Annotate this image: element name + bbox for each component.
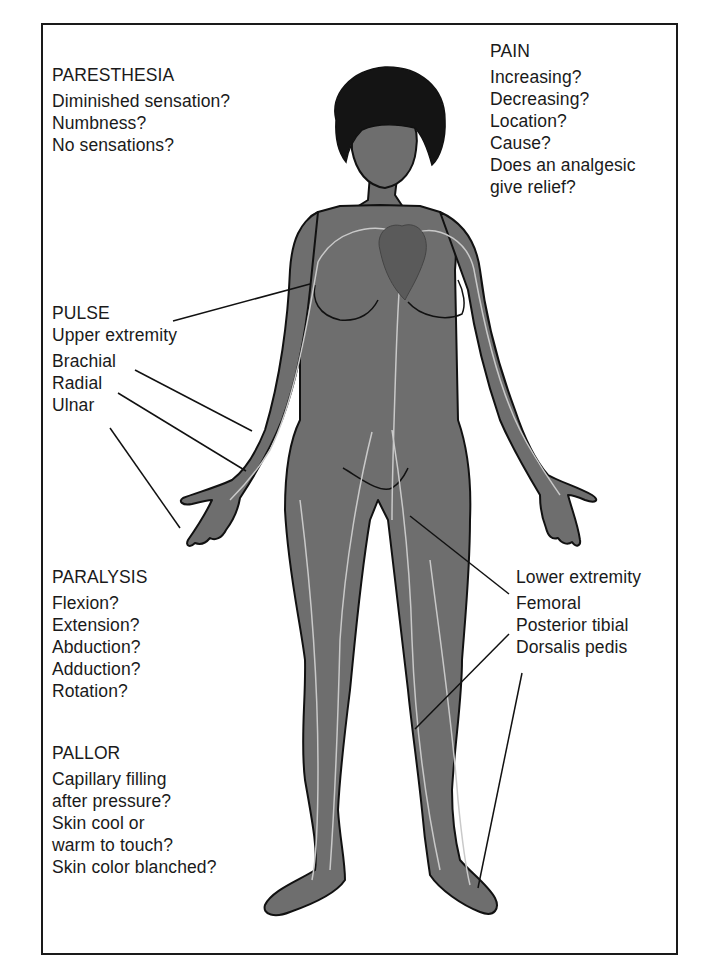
paralysis-item: Adduction? [52, 658, 148, 680]
pulse-item-ulnar: Ulnar [52, 394, 177, 416]
lower-extremity-section: Lower extremity Femoral Posterior tibial… [516, 566, 641, 658]
pain-item: Location? [490, 110, 636, 132]
pallor-item: warm to touch? [52, 834, 216, 856]
paresthesia-item: No sensations? [52, 134, 230, 156]
pain-item: give relief? [490, 176, 636, 198]
paralysis-item: Extension? [52, 614, 148, 636]
paralysis-item: Rotation? [52, 680, 148, 702]
pulse-item-radial: Radial [52, 372, 177, 394]
pallor-item: Capillary filling [52, 768, 216, 790]
paresthesia-section: PARESTHESIA Diminished sensation? Numbne… [52, 64, 230, 156]
pallor-item: Skin color blanched? [52, 856, 216, 878]
pallor-item: Skin cool or [52, 812, 216, 834]
paralysis-title: PARALYSIS [52, 566, 148, 588]
pallor-title: PALLOR [52, 742, 216, 764]
pulse-subtitle: Upper extremity [52, 324, 177, 346]
pulse-item-brachial: Brachial [52, 350, 177, 372]
pallor-section: PALLOR Capillary filling after pressure?… [52, 742, 216, 878]
lower-item-posterior-tibial: Posterior tibial [516, 614, 641, 636]
lower-item-dorsalis-pedis: Dorsalis pedis [516, 636, 641, 658]
paresthesia-item: Diminished sensation? [52, 90, 230, 112]
pulse-title: PULSE [52, 302, 177, 324]
paralysis-section: PARALYSIS Flexion? Extension? Abduction?… [52, 566, 148, 702]
paralysis-item: Abduction? [52, 636, 148, 658]
pain-item: Decreasing? [490, 88, 636, 110]
pallor-item: after pressure? [52, 790, 216, 812]
pain-item: Cause? [490, 132, 636, 154]
pain-item: Increasing? [490, 66, 636, 88]
pain-title: PAIN [490, 40, 636, 62]
pain-section: PAIN Increasing? Decreasing? Location? C… [490, 40, 636, 198]
pulse-section: PULSE Upper extremity Brachial Radial Ul… [52, 302, 177, 416]
pain-item: Does an analgesic [490, 154, 636, 176]
paresthesia-title: PARESTHESIA [52, 64, 230, 86]
lower-item-femoral: Femoral [516, 592, 641, 614]
lower-subtitle: Lower extremity [516, 566, 641, 588]
paralysis-item: Flexion? [52, 592, 148, 614]
paresthesia-item: Numbness? [52, 112, 230, 134]
